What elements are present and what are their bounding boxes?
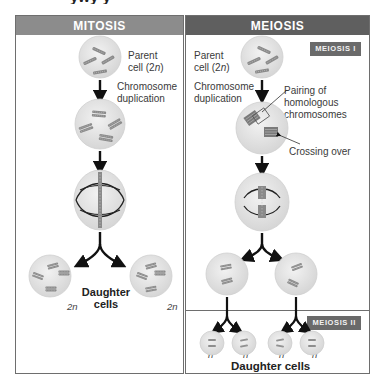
meiosis-metaphase-i-cell	[235, 173, 289, 231]
meiosis-i-daughter-cell-right	[275, 253, 317, 295]
mitosis-duplicated-cell	[75, 99, 125, 149]
meiosis-ii-arrow-2a	[285, 297, 296, 330]
meiosis-ii-arrow-2b	[296, 316, 307, 330]
mitosis-daughter-cell-right	[130, 255, 172, 297]
mitosis-arrow-split-right	[100, 244, 120, 264]
meiosis-ii-daughter-cell-1	[200, 331, 224, 355]
mitosis-arrow-split-left	[80, 232, 100, 264]
meiosis-ii-daughter-cell-4	[300, 331, 324, 355]
meiosis-ii-daughter-cell-2	[232, 331, 256, 355]
meiosis-duplicated-cell	[236, 102, 288, 154]
mitosis-daughter-cell-left	[29, 255, 71, 297]
diagram-artwork	[0, 0, 391, 391]
meiosis-arrow-split-left	[246, 233, 262, 258]
meiosis-arrow-split-right	[262, 244, 278, 258]
meiosis-ii-arrow-1a	[216, 297, 227, 330]
mitosis-parent-cell	[79, 36, 121, 78]
mitosis-metaphase-cell	[74, 170, 126, 230]
meiosis-ii-arrow-1b	[227, 316, 238, 330]
meiosis-parent-cell	[241, 36, 283, 78]
meiosis-i-daughter-cell-left	[206, 253, 248, 295]
meiosis-ii-daughter-cell-3	[268, 331, 292, 355]
